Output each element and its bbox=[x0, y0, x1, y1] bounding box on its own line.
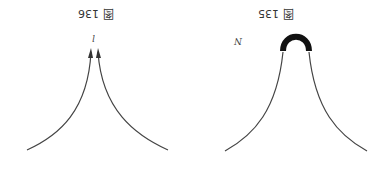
figure-135: 图 135 N bbox=[194, 0, 388, 172]
converging-curves-diagram bbox=[0, 0, 194, 172]
peak-cap-arc bbox=[283, 37, 309, 51]
right-arrowhead-icon bbox=[96, 48, 101, 58]
left-slope bbox=[225, 52, 283, 151]
figure-caption: 图 135 bbox=[258, 7, 294, 23]
right-curve bbox=[98, 52, 168, 150]
left-arrowhead-icon bbox=[88, 48, 93, 58]
point-label: N bbox=[234, 36, 242, 46]
right-slope bbox=[309, 52, 367, 151]
left-curve bbox=[27, 52, 91, 150]
figure-136: 图 136 l bbox=[0, 0, 194, 172]
bell-curve-diagram bbox=[194, 0, 388, 172]
point-label: l bbox=[92, 33, 95, 43]
figure-caption: 图 136 bbox=[78, 7, 114, 23]
